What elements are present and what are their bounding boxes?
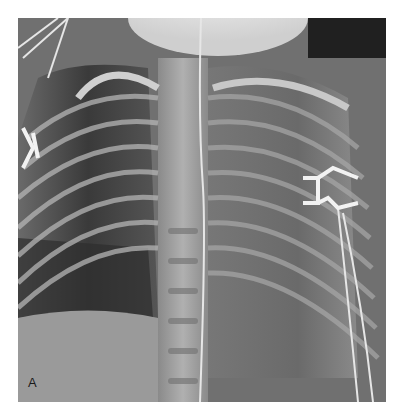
radiograph-illustration <box>18 18 386 402</box>
panel-label: A <box>28 375 37 390</box>
chest-radiograph: A <box>18 18 386 402</box>
